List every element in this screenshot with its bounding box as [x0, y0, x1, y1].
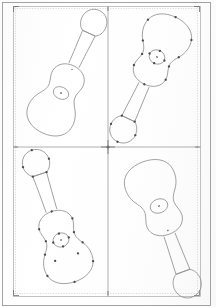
neck-joint-point [71, 69, 73, 71]
panel-bottom-left-drawing[interactable] [8, 141, 99, 290]
vector-canvas [0, 0, 216, 307]
guitar-body-path [119, 153, 194, 243]
guitar-headstock-path [19, 146, 53, 179]
guitar-body-path [20, 56, 95, 144]
panel-bottom-right-drawing[interactable] [119, 153, 216, 306]
acoustic-guitar-outline [119, 153, 216, 306]
frame-inner-border [14, 7, 201, 297]
acoustic-guitar-outline [20, 0, 121, 143]
guitar-headstock-path [77, 5, 111, 39]
sound-hole-center-point [158, 205, 160, 207]
sound-hole-center-point [60, 92, 62, 94]
sound-hole-center-point [60, 239, 62, 241]
registration-crosshair [101, 140, 115, 154]
frame-outer-border [3, 3, 211, 306]
neck-joint-point [167, 229, 169, 231]
guitar-neck-path [68, 30, 95, 68]
corner-registration-ticks [14, 7, 200, 296]
sheet-frame [3, 3, 211, 306]
acoustic-guitar-outline [8, 141, 99, 290]
guitar-headstock-path [105, 113, 140, 147]
guitar-neck-path [33, 172, 59, 213]
acoustic-guitar-outline [94, 5, 199, 153]
panel-top-right-drawing[interactable] [94, 5, 199, 153]
guitar-neck-path [122, 82, 151, 122]
path-anchor-points[interactable] [8, 141, 99, 290]
layout-sheet [0, 0, 216, 307]
panel-top-left-drawing[interactable] [20, 0, 121, 143]
guitar-neck-path [163, 232, 190, 274]
sound-hole-center-point [156, 56, 158, 58]
